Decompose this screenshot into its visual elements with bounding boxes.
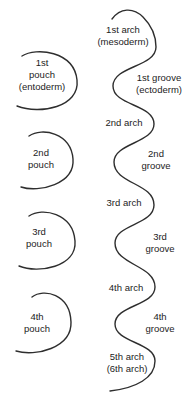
arch-1-label: 1st arch (mesoderm)	[97, 24, 148, 48]
pouch-3-label: 3rd pouch	[26, 226, 52, 250]
pouch-4-label: 4th pouch	[24, 311, 50, 335]
groove-3-label: 3rd groove	[145, 231, 176, 255]
groove-2-label: 2nd groove	[139, 148, 174, 172]
arch-3-label: 3rd arch	[107, 197, 142, 209]
groove-4-label: 4th groove	[145, 311, 176, 335]
pharyngeal-diagram: 1st pouch (entoderm) 2nd pouch 3rd pouch…	[0, 0, 191, 396]
arch-2-label: 2nd arch	[106, 117, 143, 129]
arch-5-label: 5th arch (6th arch)	[107, 351, 148, 375]
groove-1-label: 1st groove (ectoderm)	[136, 72, 182, 96]
pouch-1-label: 1st pouch (entoderm)	[19, 57, 65, 93]
arch-4-label: 4th arch	[109, 282, 143, 294]
pouch-2-label: 2nd pouch	[28, 147, 54, 171]
